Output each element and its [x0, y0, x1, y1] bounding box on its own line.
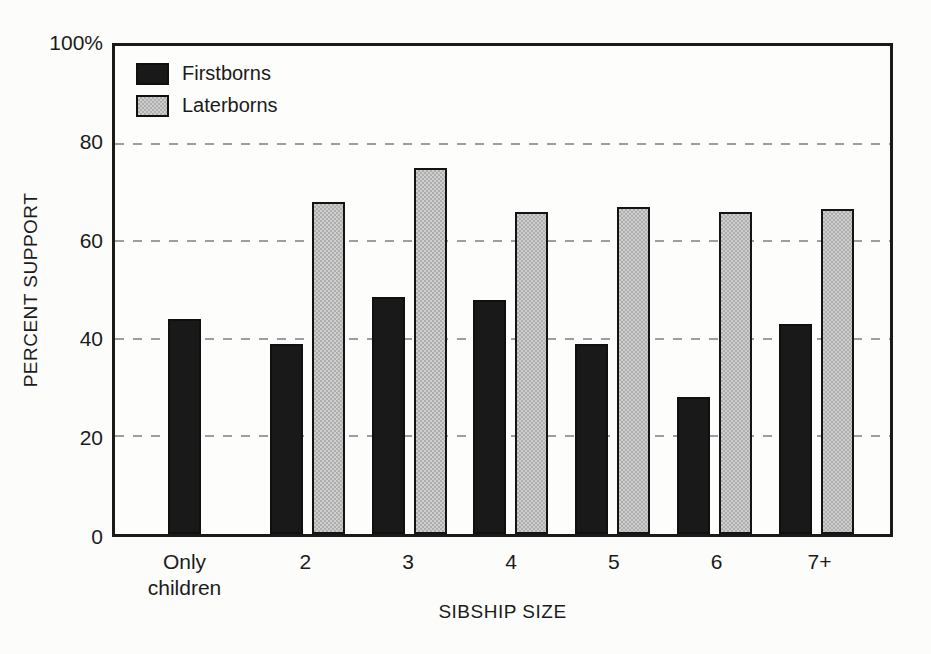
bar-laterborns-2 [312, 202, 345, 534]
bar-laterborns-4 [515, 212, 548, 534]
bar-firstborns-4 [473, 300, 506, 534]
legend-swatch-laterborns-icon [136, 95, 169, 117]
y-tick-20: 20 [80, 426, 103, 450]
plot-area: FirstbornsLaterborns [112, 43, 893, 537]
legend-label-laterborns: Laterborns [182, 94, 278, 117]
bar-group-5 [575, 46, 650, 534]
bar-firstborns-3 [372, 297, 405, 534]
bar-firstborns-7plus [779, 324, 812, 534]
x-label-only-children: Only children [147, 549, 222, 600]
bar-group-only-children [168, 46, 243, 534]
y-tick-40: 40 [80, 327, 103, 351]
y-tick-0: 0 [91, 525, 103, 549]
y-tick-80: 80 [80, 130, 103, 154]
x-axis-title: SIBSHIP SIZE [112, 601, 893, 623]
legend-row-laterborns: Laterborns [136, 94, 278, 117]
bar-group-2 [270, 46, 345, 534]
bar-group-7plus [779, 46, 854, 534]
bar-laterborns-5 [617, 207, 650, 534]
x-axis-labels: Only children234567+ [112, 549, 893, 600]
bar-chart-figure: PERCENT SUPPORT 100%806040200 Firstborns… [0, 0, 931, 654]
x-label-6: 6 [679, 549, 754, 600]
bar-group-3 [372, 46, 447, 534]
x-label-2: 2 [268, 549, 343, 600]
x-label-5: 5 [576, 549, 651, 600]
legend-swatch-firstborns-icon [136, 63, 169, 85]
bar-group-6 [677, 46, 752, 534]
legend-label-firstborns: Firstborns [182, 62, 271, 85]
legend: FirstbornsLaterborns [136, 62, 278, 117]
x-label-3: 3 [371, 549, 446, 600]
bar-laterborns-6 [719, 212, 752, 534]
y-tick-100: 100% [49, 31, 103, 55]
bar-firstborns-6 [677, 397, 710, 534]
x-label-4: 4 [473, 549, 548, 600]
bar-firstborns-5 [575, 344, 608, 534]
x-label-7plus: 7+ [782, 549, 857, 600]
bar-group-4 [473, 46, 548, 534]
y-axis-ticks: 100%806040200 [0, 43, 103, 537]
y-tick-60: 60 [80, 229, 103, 253]
bar-firstborns-only-children [168, 319, 201, 534]
legend-row-firstborns: Firstborns [136, 62, 278, 85]
bars-row [115, 46, 890, 534]
bar-laterborns-7plus [821, 209, 854, 534]
bar-laterborns-3 [414, 168, 447, 534]
bar-firstborns-2 [270, 344, 303, 534]
